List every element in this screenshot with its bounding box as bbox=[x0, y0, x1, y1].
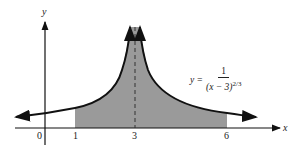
equation-numerator: 1 bbox=[218, 66, 229, 78]
equation-denominator: (x − 3) bbox=[206, 82, 232, 92]
graph bbox=[0, 0, 302, 149]
tick-0: 0 bbox=[37, 130, 42, 141]
tick-1: 1 bbox=[73, 130, 78, 141]
equation-exponent: 2/3 bbox=[232, 80, 241, 88]
tick-3: 3 bbox=[132, 130, 137, 141]
y-axis-label: y bbox=[42, 6, 46, 17]
tick-6: 6 bbox=[224, 130, 229, 141]
equation-lhs: y = bbox=[190, 75, 203, 85]
x-axis-label: x bbox=[283, 122, 287, 133]
equation-label: y = 1 (x − 3)2/3 bbox=[190, 66, 241, 93]
